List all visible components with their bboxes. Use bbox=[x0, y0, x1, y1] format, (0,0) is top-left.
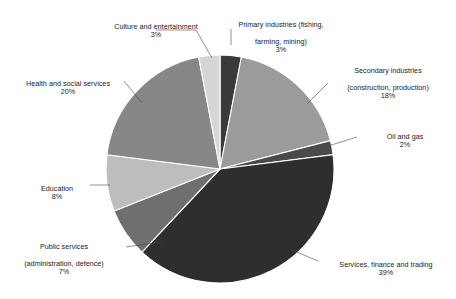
pie-label-public-text-line1: Public services bbox=[40, 242, 88, 251]
pie-label-primary-text-line1: Primary industries (fishing, bbox=[238, 20, 323, 29]
pie-chart: Culture and entertainment 3% Primary ind… bbox=[0, 0, 456, 299]
pie-label-services-finance-trading: Services, finance and trading 39% bbox=[316, 252, 456, 286]
pie-label-oil-and-gas: Oil and gas 2% bbox=[358, 124, 452, 158]
pie-label-oil-percent: 2% bbox=[358, 141, 452, 150]
pie-label-primary-industries: Primary industries (fishing, farming, mi… bbox=[222, 12, 340, 64]
pie-label-culture-and-entertainment: Culture and entertainment 3% bbox=[92, 14, 220, 48]
pie-label-secondary-text-line1: Secondary industries bbox=[354, 66, 422, 75]
pie-label-health-and-social-services: Health and social services 20% bbox=[6, 71, 130, 105]
pie-label-education-percent: 8% bbox=[18, 193, 96, 202]
pie-label-primary-percent: 3% bbox=[222, 46, 340, 55]
pie-label-public-services: Public services (administration, defence… bbox=[2, 234, 126, 286]
pie-label-education: Education 8% bbox=[18, 176, 96, 210]
pie-label-secondary-industries: Secondary industries (construction, prod… bbox=[322, 58, 454, 110]
pie-label-secondary-percent: 18% bbox=[322, 92, 454, 101]
pie-label-health-percent: 20% bbox=[6, 88, 130, 97]
leader-line-services bbox=[292, 250, 318, 261]
pie-label-services-percent: 39% bbox=[316, 269, 456, 278]
pie-label-culture-percent: 3% bbox=[92, 31, 220, 40]
pie-slices bbox=[106, 55, 334, 283]
pie-label-public-percent: 7% bbox=[2, 268, 126, 277]
